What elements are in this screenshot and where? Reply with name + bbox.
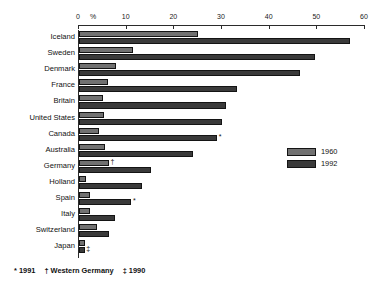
legend-swatch-1960	[287, 148, 316, 156]
bar-chart: % 0102030405060 IcelandSwedenDenmarkFran…	[0, 0, 387, 287]
category-label-denmark: Denmark	[3, 64, 75, 74]
bar-denmark-1960	[79, 63, 116, 69]
bar-spain-1992	[79, 199, 131, 205]
bar-britain-1992	[79, 102, 226, 108]
bar-sweden-1992	[79, 54, 315, 60]
bar-holland-1960	[79, 176, 86, 182]
footnote-part-2: † Western Germany	[44, 266, 113, 275]
bar-australia-1960	[79, 144, 105, 150]
bar-row: Switzerland	[0, 223, 387, 239]
bar-row: Japan‡	[0, 239, 387, 255]
bar-japan-1960	[79, 240, 85, 246]
annotation-marker: †	[111, 158, 115, 165]
legend-item-1992: 1992	[287, 160, 377, 170]
bar-italy-1992	[79, 215, 115, 221]
bar-sweden-1960	[79, 47, 133, 53]
category-label-switzerland: Switzerland	[3, 225, 75, 235]
bar-germany-1960	[79, 160, 109, 166]
legend-label-1960: 1960	[321, 148, 337, 156]
category-label-iceland: Iceland	[3, 32, 75, 42]
x-tick-40	[269, 25, 270, 29]
plot-area: IcelandSwedenDenmarkFranceBritainUnited …	[0, 30, 387, 260]
legend-item-1960: 1960	[287, 148, 377, 158]
category-label-united-states: United States	[3, 113, 75, 123]
bar-row: France	[0, 78, 387, 94]
bar-row: Canada*	[0, 127, 387, 143]
annotation-marker: *	[219, 133, 222, 140]
x-tick-label-60: 60	[360, 13, 368, 21]
category-label-sweden: Sweden	[3, 48, 75, 58]
category-label-britain: Britain	[3, 96, 75, 106]
bar-switzerland-1960	[79, 224, 97, 230]
bar-france-1992	[79, 86, 237, 92]
bar-canada-1992	[79, 135, 217, 141]
x-tick-label-0: 0	[76, 13, 80, 21]
bar-row: Spain*	[0, 191, 387, 207]
legend-swatch-1992	[287, 160, 316, 168]
bar-row: Iceland	[0, 30, 387, 46]
bar-japan-1992	[79, 247, 85, 253]
chart-legend: 1960 1992	[287, 148, 377, 172]
category-label-australia: Australia	[3, 145, 75, 155]
bar-row: Italy	[0, 207, 387, 223]
chart-footnote: * 1991† Western Germany‡ 1990	[14, 266, 154, 275]
bar-row: Britain	[0, 94, 387, 110]
bar-switzerland-1992	[79, 231, 109, 237]
category-label-spain: Spain	[3, 193, 75, 203]
bar-row: Sweden	[0, 46, 387, 62]
bar-germany-1992	[79, 167, 151, 173]
bar-italy-1960	[79, 208, 90, 214]
category-label-japan: Japan	[3, 241, 75, 251]
bar-united-states-1960	[79, 112, 104, 118]
category-label-holland: Holland	[3, 177, 75, 187]
bar-britain-1960	[79, 95, 103, 101]
x-tick-0	[78, 25, 79, 29]
x-tick-60	[364, 25, 365, 29]
x-tick-50	[316, 25, 317, 29]
category-label-canada: Canada	[3, 129, 75, 139]
footnote-part-1: * 1991	[14, 266, 35, 275]
bar-holland-1992	[79, 183, 142, 189]
bar-france-1960	[79, 79, 108, 85]
bar-australia-1992	[79, 151, 193, 157]
bar-row: Denmark	[0, 62, 387, 78]
bar-row: Holland	[0, 175, 387, 191]
x-tick-label-30: 30	[217, 13, 225, 21]
x-tick-10	[126, 25, 127, 29]
legend-label-1992: 1992	[321, 160, 337, 168]
bar-united-states-1992	[79, 119, 222, 125]
category-label-italy: Italy	[3, 209, 75, 219]
x-tick-label-40: 40	[265, 13, 273, 21]
category-label-germany: Germany	[3, 161, 75, 171]
x-tick-label-20: 20	[169, 13, 177, 21]
x-tick-20	[173, 25, 174, 29]
percent-symbol-label: %	[90, 13, 96, 21]
x-tick-label-50: 50	[312, 13, 320, 21]
bar-canada-1960	[79, 128, 99, 134]
category-label-france: France	[3, 80, 75, 90]
annotation-marker: *	[133, 197, 136, 204]
x-tick-label-10: 10	[122, 13, 130, 21]
bar-row: United States	[0, 111, 387, 127]
x-tick-30	[221, 25, 222, 29]
x-axis: % 0102030405060	[0, 0, 387, 30]
bar-iceland-1992	[79, 38, 350, 44]
bar-denmark-1992	[79, 70, 300, 76]
bar-iceland-1960	[79, 31, 198, 37]
annotation-marker: ‡	[86, 245, 90, 252]
footnote-part-3: ‡ 1990	[123, 266, 146, 275]
bar-spain-1960	[79, 192, 90, 198]
